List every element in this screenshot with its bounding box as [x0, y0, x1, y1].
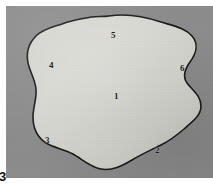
- specimen-outline-drawing: [6, 6, 213, 178]
- region-label-3: 3: [45, 136, 50, 145]
- region-label-6: 6: [180, 64, 185, 73]
- region-label-1: 1: [114, 92, 119, 101]
- region-label-4: 4: [49, 61, 54, 70]
- region-label-2: 2: [155, 146, 160, 155]
- figure-number: 3: [0, 170, 6, 183]
- figure-page: 1 2 3 4 5 6 3: [0, 0, 213, 191]
- region-label-5: 5: [111, 31, 116, 40]
- photographic-plate: 1 2 3 4 5 6: [6, 6, 213, 178]
